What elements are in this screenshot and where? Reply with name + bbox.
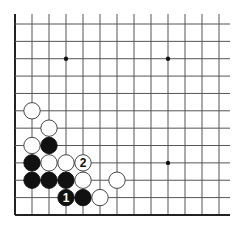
star-point (64, 57, 68, 61)
white-stone (58, 155, 74, 171)
white-stone (75, 172, 91, 188)
star-point (166, 57, 170, 61)
white-stone (41, 120, 57, 136)
black-stone (24, 155, 40, 171)
white-stone (92, 189, 108, 205)
white-stone (41, 155, 57, 171)
white-stone (24, 103, 40, 119)
black-stone (41, 137, 57, 153)
black-stone (58, 172, 74, 188)
white-stone (24, 137, 40, 153)
black-stone (75, 189, 91, 205)
white-stone (109, 172, 125, 188)
caption-cropped (20, 226, 50, 230)
go-board: 21 (0, 0, 240, 230)
black-stone (24, 172, 40, 188)
black-stone: 1 (58, 189, 74, 205)
stones: 21 (24, 103, 125, 206)
move-number-label: 2 (80, 156, 87, 170)
star-point (166, 161, 170, 165)
move-number-label: 1 (63, 191, 70, 205)
black-stone (41, 172, 57, 188)
white-stone: 2 (75, 155, 91, 171)
